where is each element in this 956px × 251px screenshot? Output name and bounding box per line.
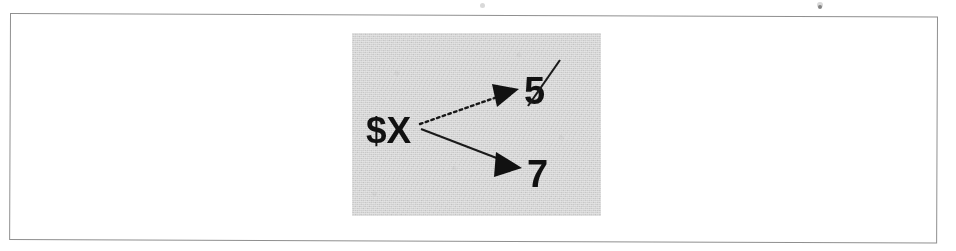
value-label-7: 7 <box>527 153 548 195</box>
edge-to-5 <box>420 84 519 124</box>
edge-to-5-arrowhead <box>492 84 519 107</box>
variable-label: $X <box>366 110 412 151</box>
value-node-5: 5 <box>524 60 560 112</box>
edge-to-5-line <box>420 95 503 124</box>
variable-reference-diagram: $X 5 7 <box>0 0 956 251</box>
value-label-5: 5 <box>524 70 545 112</box>
edge-to-7-line <box>421 129 507 162</box>
edge-to-7-arrowhead <box>494 152 522 177</box>
edge-to-7 <box>421 129 522 177</box>
value-node-7: 7 <box>527 153 548 195</box>
